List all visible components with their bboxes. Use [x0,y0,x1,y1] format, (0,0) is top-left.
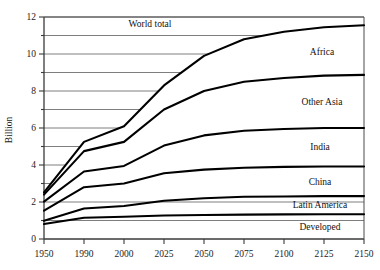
series-label-africa: Africa [310,47,335,57]
y-axis-title: Billion [4,117,14,144]
chart-svg: 195019902000202520502075210021252150 024… [0,0,380,270]
x-tick-label-2025: 2025 [155,249,174,259]
y-tick-label-2: 2 [31,197,36,207]
x-axis-tick-labels: 195019902000202520502075210021252150 [35,249,374,259]
x-tick-label-2075: 2075 [235,249,254,259]
x-tick-label-2150: 2150 [355,249,374,259]
x-tick-label-1990: 1990 [75,249,94,259]
series-label-latin-america: Latin America [293,200,348,210]
y-tick-label-4: 4 [31,160,36,170]
y-axis-tick-labels: 024681012 [27,12,37,244]
x-tick-label-2050: 2050 [195,249,214,259]
x-tick-label-2100: 2100 [275,249,294,259]
x-tick-label-2125: 2125 [315,249,334,259]
y-tick-label-10: 10 [27,49,37,59]
x-tick-label-2000: 2000 [115,249,134,259]
population-projection-chart: 195019902000202520502075210021252150 024… [0,0,380,270]
x-tick-label-1950: 1950 [35,249,54,259]
y-tick-label-6: 6 [31,123,36,133]
world-total-label: World total [129,19,172,29]
series-label-developed: Developed [299,222,340,232]
series-label-india: India [310,142,330,152]
series-label-china: China [309,177,332,187]
y-tick-label-0: 0 [31,234,36,244]
series-label-other-asia: Other Asia [302,97,344,107]
y-tick-label-8: 8 [31,86,36,96]
y-tick-label-12: 12 [27,12,37,22]
